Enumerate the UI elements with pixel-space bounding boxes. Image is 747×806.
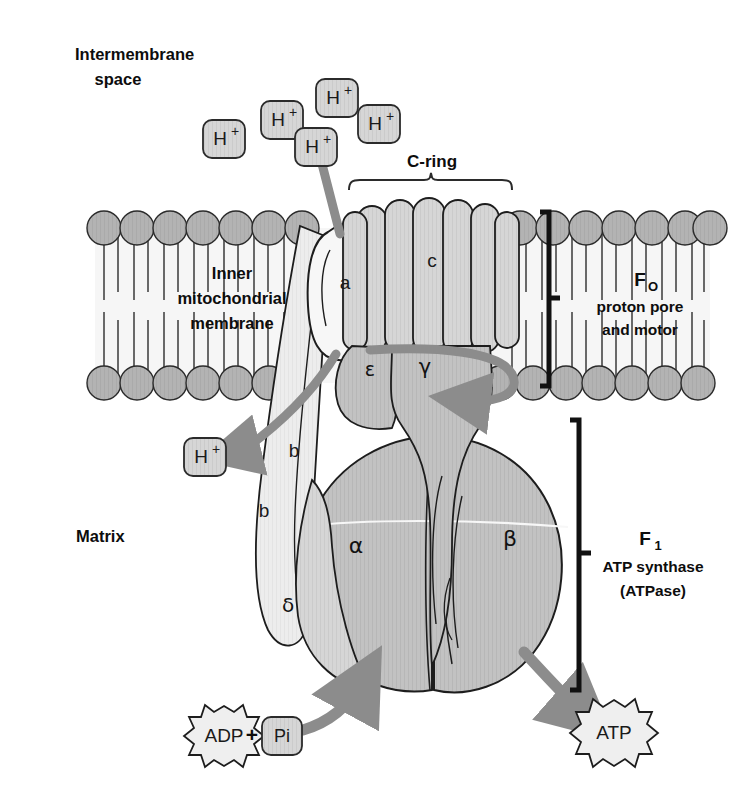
subunit-label-b-bottom: b: [259, 500, 270, 521]
c-subunit: [413, 198, 445, 354]
proton-label: H: [213, 128, 227, 149]
proton-box-matrix: H +: [184, 438, 226, 476]
fo-label-sub: O: [648, 279, 658, 294]
subunit-label-alpha: α: [349, 533, 364, 558]
membrane-label-line2: mitochondrial: [177, 289, 286, 307]
proton-charge: +: [323, 131, 331, 147]
f1-label-line2: ATP synthase: [602, 558, 703, 575]
membrane-label-line3: membrane: [190, 314, 273, 332]
proton-label: H: [305, 136, 319, 157]
plus-sign: +: [246, 723, 258, 746]
f1-label-line3: (ATPase): [620, 582, 686, 599]
proton-charge: +: [344, 82, 352, 98]
proton-label: H: [368, 113, 382, 134]
c-subunit: [495, 212, 519, 348]
proton-box: H +: [316, 79, 358, 117]
fo-label-line3: and motor: [602, 321, 678, 338]
proton-label: H: [271, 109, 285, 130]
proton-box: H +: [203, 120, 245, 158]
matrix-label: Matrix: [76, 527, 125, 545]
proton-charge: +: [289, 104, 297, 120]
subunit-label-gamma: γ: [419, 355, 431, 379]
atp-synthase-diagram: H + H + H + H + H + H +: [0, 0, 747, 806]
c-subunit: [385, 200, 415, 352]
proton-charge: +: [212, 441, 220, 457]
membrane-label-line1: Inner: [212, 264, 253, 282]
subunit-label-b-top: b: [289, 440, 300, 461]
fo-label-line2: proton pore: [597, 298, 684, 315]
subunit-label-beta: β: [503, 526, 517, 551]
c-subunit: [443, 200, 473, 354]
figure-canvas: H + H + H + H + H + H +: [0, 0, 747, 806]
adp-label: ADP: [204, 725, 243, 746]
subunit-label-epsilon: ε: [365, 358, 375, 380]
subunit-label-c: c: [427, 250, 437, 271]
atp-label: ATP: [596, 722, 632, 743]
pi-label: Pi: [274, 726, 290, 746]
c-ring: [343, 198, 519, 354]
proton-charge: +: [386, 108, 394, 124]
subunit-label-delta: δ: [282, 593, 294, 617]
subunit-label-a: a: [340, 272, 351, 293]
proton-charge: +: [231, 123, 239, 139]
fo-label-main: F: [634, 269, 646, 290]
intermembrane-space-label-line2: space: [95, 70, 142, 88]
proton-label: H: [194, 446, 208, 467]
proton-label: H: [326, 87, 340, 108]
intermembrane-space-label-line1: Intermembrane: [75, 45, 194, 63]
f1-label-sub: 1: [654, 538, 661, 553]
proton-box: H +: [358, 105, 400, 143]
c-ring-label: C-ring: [407, 152, 457, 171]
proton-box: H +: [295, 128, 337, 166]
f1-label-main: F: [639, 528, 651, 549]
